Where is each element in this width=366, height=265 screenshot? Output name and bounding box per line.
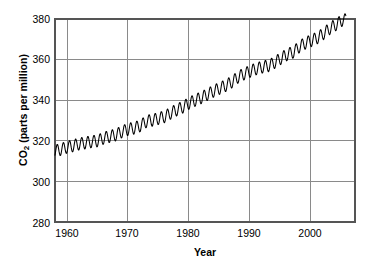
gridlines xyxy=(55,19,355,222)
plot-canvas xyxy=(0,0,366,265)
co2-line-chart: CO2 (parts per million) Year 380 360 340… xyxy=(0,0,366,265)
co2-data-line xyxy=(55,14,346,156)
